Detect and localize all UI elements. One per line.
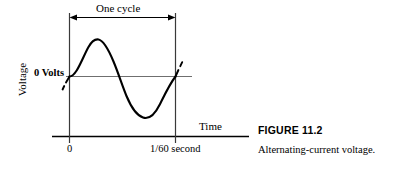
- zero-volts-label: 0 Volts: [34, 68, 64, 79]
- x-tick-label-period: 1/60 second: [150, 144, 200, 155]
- figure-number: FIGURE 11.2: [258, 125, 323, 136]
- x-tick-label-0: 0: [67, 144, 72, 155]
- curve-continuation-right-icon: [176, 62, 183, 76]
- one-cycle-arrow: [70, 15, 176, 21]
- figure-caption: Alternating-current voltage.: [258, 145, 375, 156]
- time-axis-label: Time: [199, 121, 222, 132]
- voltage-axis-label: Voltage: [17, 52, 28, 108]
- one-cycle-annotation-label: One cycle: [96, 3, 140, 14]
- figure-container: One cycle Voltage 0 Volts Time 0 1/60 se…: [0, 0, 397, 174]
- ac-voltage-curve: [70, 39, 176, 118]
